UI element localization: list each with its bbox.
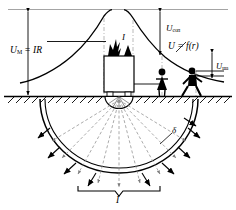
current-brace xyxy=(78,186,160,196)
label-current-density: δ xyxy=(172,126,176,135)
person-walking-figure xyxy=(182,68,202,96)
label-fault-current: I xyxy=(122,33,125,42)
u-max-rest: = IR xyxy=(22,45,42,55)
u-contact-subscript: соп xyxy=(173,27,181,33)
label-total-current: I xyxy=(116,196,119,206)
figure-root: UМ = IR Uсоп U = f(r) Uша I δ I xyxy=(0,0,236,210)
label-u-curve: U = f(r) xyxy=(168,42,199,52)
u-step-subscript: ша xyxy=(222,65,228,71)
label-u-max: UМ = IR xyxy=(10,46,42,56)
person-standing-figure xyxy=(156,69,168,96)
label-u-contact: Uсоп xyxy=(166,24,180,34)
diagram-canvas xyxy=(0,0,236,210)
fault-arc-icon xyxy=(108,39,132,56)
current-flow-lines xyxy=(52,100,186,187)
label-u-step: Uша xyxy=(216,62,228,71)
delta-leader xyxy=(160,133,172,144)
equipment-box xyxy=(104,56,134,97)
spreading-hemisphere xyxy=(40,99,198,173)
u-max-symbol: U xyxy=(10,45,17,55)
